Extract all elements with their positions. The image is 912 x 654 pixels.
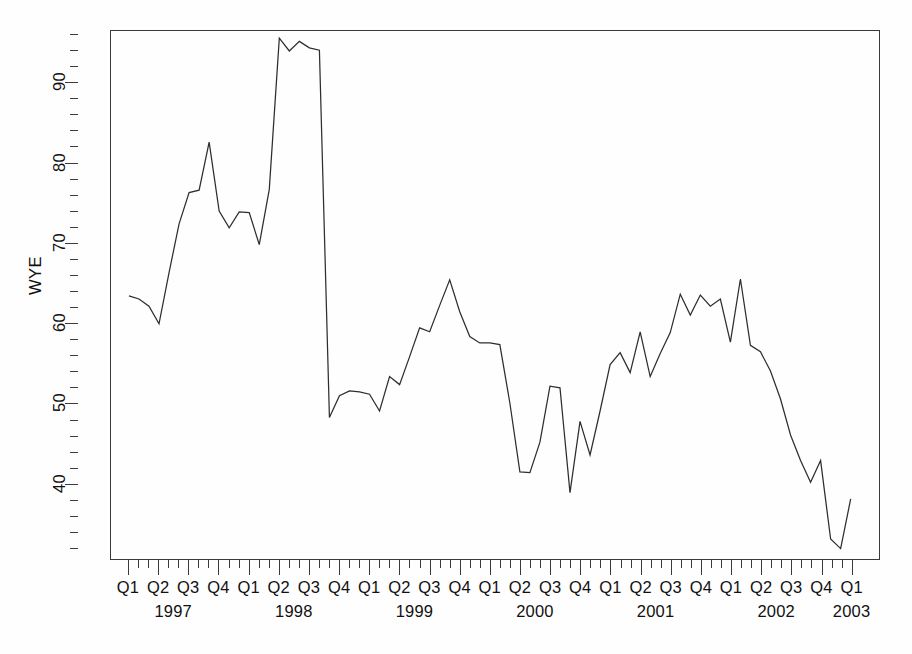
x-tick-minor: [229, 560, 230, 568]
x-tick-major: [249, 560, 250, 575]
y-tick-minor: [70, 211, 78, 212]
x-quarter-label: Q3: [177, 578, 199, 597]
y-tick-minor: [70, 516, 78, 517]
y-axis: WYE 405060708090: [0, 0, 110, 654]
x-tick-major: [761, 560, 762, 575]
x-tick-major: [580, 560, 581, 575]
x-tick-minor: [319, 560, 320, 568]
x-quarter-label: Q2: [509, 578, 531, 597]
x-tick-major: [671, 560, 672, 575]
x-quarter-label: Q1: [358, 578, 380, 597]
x-tick-minor: [289, 560, 290, 568]
x-tick-major: [309, 560, 310, 575]
x-quarter-label: Q3: [780, 578, 802, 597]
y-tick-minor: [70, 468, 78, 469]
y-tick-minor: [70, 339, 78, 340]
x-tick-major: [791, 560, 792, 575]
x-tick-major: [218, 560, 219, 575]
y-tick-minor: [70, 98, 78, 99]
x-quarter-label: Q4: [690, 578, 712, 597]
x-tick-major: [339, 560, 340, 575]
x-tick-minor: [621, 560, 622, 568]
x-tick-minor: [560, 560, 561, 568]
y-tick-minor: [70, 355, 78, 356]
x-year-label: 2002: [757, 602, 795, 621]
x-tick-minor: [781, 560, 782, 568]
y-axis-title: WYE: [26, 256, 45, 295]
x-tick-minor: [148, 560, 149, 568]
x-quarter-label: Q2: [388, 578, 410, 597]
x-quarter-label: Q4: [207, 578, 229, 597]
y-tick-minor: [70, 420, 78, 421]
y-tick-minor: [70, 307, 78, 308]
y-tick-minor: [70, 227, 78, 228]
x-tick-minor: [259, 560, 260, 568]
y-tick-minor: [70, 452, 78, 453]
x-tick-major: [158, 560, 159, 575]
x-quarter-label: Q3: [539, 578, 561, 597]
x-tick-major: [610, 560, 611, 575]
x-tick-minor: [741, 560, 742, 568]
x-year-label: 2001: [637, 602, 675, 621]
x-tick-minor: [842, 560, 843, 568]
x-tick-minor: [721, 560, 722, 568]
x-tick-minor: [570, 560, 571, 568]
x-quarter-label: Q2: [147, 578, 169, 597]
y-tick-minor: [70, 371, 78, 372]
x-quarter-label: Q1: [599, 578, 621, 597]
x-quarter-label: Q4: [810, 578, 832, 597]
x-quarter-label: Q1: [117, 578, 139, 597]
y-tick-minor: [70, 66, 78, 67]
x-year-label: 1999: [396, 602, 434, 621]
x-tick-major: [188, 560, 189, 575]
x-quarter-label: Q3: [298, 578, 320, 597]
x-tick-major: [128, 560, 129, 575]
x-quarter-label: Q4: [328, 578, 350, 597]
y-tick-minor: [70, 195, 78, 196]
x-quarter-label: Q2: [629, 578, 651, 597]
x-year-label: 1997: [154, 602, 192, 621]
x-tick-minor: [661, 560, 662, 568]
x-quarter-label: Q3: [659, 578, 681, 597]
x-year-label: 1998: [275, 602, 313, 621]
x-tick-minor: [349, 560, 350, 568]
x-quarter-label: Q2: [268, 578, 290, 597]
y-tick-minor: [70, 50, 78, 51]
x-tick-minor: [651, 560, 652, 568]
x-tick-major: [822, 560, 823, 575]
x-quarter-label: Q1: [237, 578, 259, 597]
x-tick-minor: [510, 560, 511, 568]
x-year-label: 2000: [516, 602, 554, 621]
y-tick-label: 80: [51, 153, 70, 172]
x-tick-minor: [208, 560, 209, 568]
x-tick-minor: [178, 560, 179, 568]
x-tick-minor: [771, 560, 772, 568]
y-tick-minor: [70, 259, 78, 260]
x-quarter-label: Q4: [448, 578, 470, 597]
x-tick-major: [460, 560, 461, 575]
x-tick-minor: [751, 560, 752, 568]
x-tick-major: [852, 560, 853, 575]
plot-area: [110, 30, 880, 560]
x-tick-minor: [631, 560, 632, 568]
y-tick-minor: [70, 34, 78, 35]
x-tick-major: [701, 560, 702, 575]
y-tick-minor: [70, 275, 78, 276]
x-year-label: 2003: [833, 602, 871, 621]
series-wye-polyline: [129, 38, 851, 548]
y-tick-minor: [70, 179, 78, 180]
x-tick-minor: [711, 560, 712, 568]
x-tick-minor: [450, 560, 451, 568]
x-tick-minor: [480, 560, 481, 568]
x-tick-minor: [540, 560, 541, 568]
x-quarter-label: Q2: [750, 578, 772, 597]
x-tick-minor: [530, 560, 531, 568]
y-tick-minor: [70, 436, 78, 437]
x-tick-minor: [691, 560, 692, 568]
x-tick-major: [399, 560, 400, 575]
y-tick-minor: [70, 500, 78, 501]
y-tick-label: 50: [51, 394, 70, 413]
x-tick-minor: [329, 560, 330, 568]
x-tick-major: [641, 560, 642, 575]
x-quarter-label: Q1: [479, 578, 501, 597]
